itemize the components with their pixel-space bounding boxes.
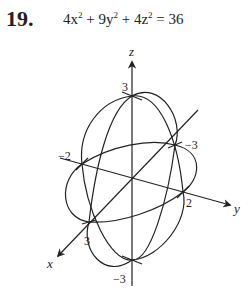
label-z-neg: −3 bbox=[113, 272, 126, 286]
ellipsoid-diagram: z y x 3 −3 3 −3 2 −2 bbox=[0, 0, 252, 297]
y-axis-label: y bbox=[232, 201, 240, 216]
label-x-pos: 3 bbox=[84, 234, 90, 248]
z-axis-label: z bbox=[128, 44, 134, 59]
label-x-neg: −3 bbox=[185, 138, 198, 152]
x-axis-label: x bbox=[46, 256, 53, 271]
label-z-pos: 3 bbox=[122, 80, 128, 94]
label-y-pos: 2 bbox=[186, 196, 192, 210]
label-y-neg: −2 bbox=[58, 149, 71, 163]
